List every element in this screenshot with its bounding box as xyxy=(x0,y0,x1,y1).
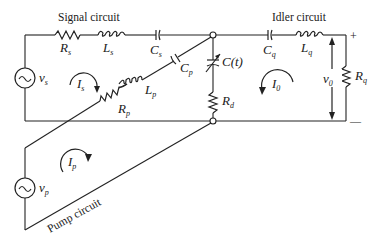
vp-label: vp xyxy=(39,180,49,197)
cp-label: Cp xyxy=(180,60,193,77)
vs-label: vs xyxy=(39,70,48,87)
arrow-head-icon xyxy=(85,154,92,162)
idler-circuit: Cq Lq + Rq — v0 I0 xyxy=(216,29,367,127)
inductor-lp-icon xyxy=(119,76,142,84)
resistor-rd-icon xyxy=(209,92,217,113)
cq-label: Cq xyxy=(263,42,276,59)
wire xyxy=(25,101,100,148)
i0-label: I0 xyxy=(271,76,280,93)
sine-wave-icon xyxy=(19,77,31,82)
rd-label: Rd xyxy=(221,93,235,110)
cs-label: Cs xyxy=(150,42,162,59)
is-label: Is xyxy=(76,76,84,93)
signal-circuit-title: Signal circuit xyxy=(58,11,120,24)
pump-circuit: Cp Lp Rp vp Ip xyxy=(15,37,211,230)
rq-label: Rq xyxy=(354,68,367,85)
rs-label: Rs xyxy=(59,40,71,57)
resistor-rs-icon xyxy=(55,31,80,39)
varactor-branch: C(t) Rd xyxy=(206,32,243,124)
rp-label: Rp xyxy=(117,101,130,118)
ip-label: Ip xyxy=(67,154,76,171)
pump-source-vp xyxy=(15,178,35,198)
capacitor-cq-icon xyxy=(268,30,272,40)
plus-terminal: + xyxy=(350,29,357,43)
lp-label: Lp xyxy=(144,82,156,99)
resistor-rp-icon xyxy=(100,87,122,101)
wire xyxy=(25,123,211,230)
arrow-head-icon xyxy=(259,87,266,95)
minus-terminal: — xyxy=(349,115,362,127)
sine-wave-icon xyxy=(19,187,31,192)
idler-circuit-title: Idler circuit xyxy=(272,11,327,23)
signal-circuit: vs Rs Ls Cs Is xyxy=(15,30,210,121)
lq-label: Lq xyxy=(300,40,312,57)
ct-label: C(t) xyxy=(222,54,243,69)
signal-source-vs xyxy=(15,68,35,88)
wire xyxy=(142,61,174,80)
inductor-lq-icon xyxy=(296,31,323,36)
resistor-rq-icon xyxy=(342,66,350,87)
capacitor-cs-icon xyxy=(156,30,160,40)
arrow-up-icon xyxy=(329,37,335,45)
arrow-down-icon xyxy=(329,112,335,120)
wire xyxy=(178,37,211,57)
arrow-head-icon xyxy=(94,86,100,93)
ls-label: Ls xyxy=(102,40,113,57)
inductor-ls-icon xyxy=(98,31,125,36)
parametric-amplifier-circuit-diagram: Signal circuit Idler circuit Pump circui… xyxy=(0,0,378,245)
